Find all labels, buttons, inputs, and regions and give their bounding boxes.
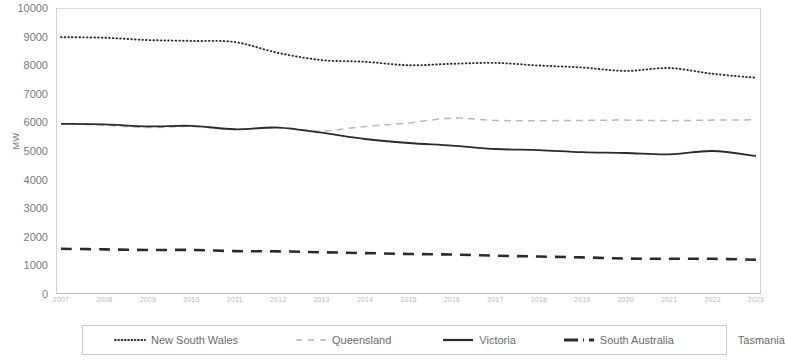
x-axis-tick-label: 2020 [618,296,634,303]
solid-line-icon [441,335,475,345]
dashed-line-icon [294,335,328,345]
x-axis-tick-label: 2014 [357,296,373,303]
legend-item[interactable]: Queensland [294,334,391,346]
y-axis-tick-label: 3000 [24,203,48,214]
dashdot-line-icon [562,335,596,345]
legend-item[interactable]: Tasmania [734,334,785,346]
x-axis-tick-label: 2013 [313,296,329,303]
x-axis-tick-label: 2021 [661,296,677,303]
y-axis-tick-label: 5000 [24,146,48,157]
legend-item-label: Queensland [332,334,391,346]
series-line [61,118,756,131]
legend-item-label: Victoria [479,334,515,346]
x-axis-tick-label: 2018 [531,296,547,303]
legend-item[interactable]: South Australia [562,334,674,346]
y-axis-tick-label: 4000 [24,174,48,185]
x-axis-tick-label: 2016 [444,296,460,303]
y-axis-tick-label: 7000 [24,88,48,99]
y-axis-tick-label: 2000 [24,231,48,242]
x-axis-tick-label: 2012 [270,296,286,303]
series-lines [56,8,761,294]
series-line [61,37,756,78]
dotted-line-icon [113,335,147,345]
y-axis-tick-label: 0 [42,289,48,300]
series-line [61,124,756,156]
legend-item-label: New South Wales [151,334,238,346]
chart-legend: New South WalesQueenslandVictoriaSouth A… [82,325,727,355]
y-axis-tick-labels: 0100020003000400050006000700080009000100… [0,0,52,300]
y-axis-tick-label: 10000 [17,3,48,14]
y-axis-tick-label: 1000 [24,260,48,271]
x-axis-tick-label: 2023 [748,296,764,303]
legend-item-label: Tasmania [738,334,785,346]
x-axis-tick-label: 2011 [227,296,243,303]
x-axis-tick-label: 2022 [704,296,720,303]
x-axis-tick-label: 2009 [140,296,156,303]
x-axis-tick-label: 2017 [487,296,503,303]
legend-item-label: South Australia [600,334,674,346]
x-axis-tick-labels: 2007200820092010201120122013201420152016… [56,296,761,312]
x-axis-line [56,293,761,294]
x-axis-tick-label: 2019 [574,296,590,303]
legend-item[interactable]: New South Wales [113,334,238,346]
x-axis-tick-label: 2007 [53,296,69,303]
y-axis-tick-label: 6000 [24,117,48,128]
plot-area [56,8,761,294]
series-line [61,249,756,260]
y-axis-tick-label: 9000 [24,31,48,42]
legend-item[interactable]: Victoria [441,334,515,346]
x-axis-tick-label: 2015 [400,296,416,303]
x-axis-tick-label: 2008 [96,296,112,303]
x-axis-tick-label: 2010 [183,296,199,303]
y-axis-tick-label: 8000 [24,60,48,71]
